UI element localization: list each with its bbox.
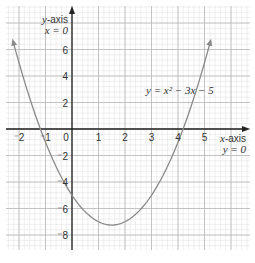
- y-tick-label: 6: [62, 45, 68, 56]
- tick-labels: ⁻2⁻1012345642⁻2⁻4⁻6⁻8: [14, 45, 208, 242]
- chart: ⁻2⁻1012345642⁻2⁻4⁻6⁻8 y-axis x = 0 x-axi…: [0, 0, 255, 263]
- equation-text: y = x² − 3x − 5: [145, 84, 214, 96]
- y-tick-label: 4: [62, 71, 68, 82]
- x-tick-label: 3: [149, 132, 155, 143]
- x-tick-label: ⁻2: [14, 132, 25, 143]
- x-axis-sub-label: y = 0: [222, 143, 247, 155]
- x-tick-label: ⁻1: [40, 132, 51, 143]
- grid-major: [6, 6, 250, 250]
- y-tick-label: 2: [62, 98, 68, 109]
- axes: [6, 6, 250, 250]
- y-tick-label: ⁻6: [57, 204, 68, 215]
- y-tick-label: ⁻8: [57, 230, 68, 241]
- y-tick-label: ⁻2: [57, 151, 68, 162]
- x-tick-label: 5: [202, 132, 208, 143]
- y-axis-sub-label: x = 0: [44, 24, 69, 36]
- x-tick-label: 4: [175, 132, 181, 143]
- x-tick-label: 2: [122, 132, 128, 143]
- equation-label: y = x² − 3x − 5: [145, 84, 214, 96]
- y-tick-label: ⁻4: [57, 177, 68, 188]
- x-tick-label: 1: [96, 132, 102, 143]
- x-tick-label: 0: [63, 132, 69, 143]
- grid-minor: [6, 6, 250, 250]
